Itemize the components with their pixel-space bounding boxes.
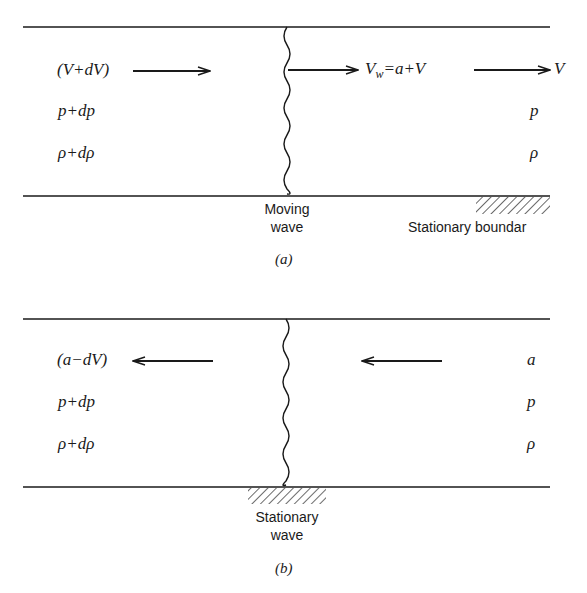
caption-b: (b)	[275, 560, 293, 577]
right-velocity-label-b: a	[527, 350, 536, 370]
stationary-boundary-hatch-a	[476, 197, 550, 214]
left-density-label-a: ρ+dρ	[58, 143, 94, 163]
moving-wave-label: Moving wave	[252, 200, 322, 236]
right-density-label-b: ρ	[527, 434, 535, 454]
left-velocity-label-b: (a−dV)	[57, 350, 107, 370]
wave-velocity-expression: =a+V	[383, 59, 425, 78]
diagram-canvas	[0, 0, 587, 593]
wave-velocity-label: Vw=a+V	[365, 59, 425, 82]
stationary-wave-front	[283, 319, 289, 486]
stationary-wave-label-line2: wave	[242, 526, 332, 544]
left-pressure-label-a: p+dp	[58, 101, 95, 121]
stationary-boundary-label: Stationary boundar	[408, 218, 526, 236]
right-pressure-label-a: p	[530, 101, 539, 121]
stationary-wave-label: Stationary wave	[242, 508, 332, 544]
moving-wave-label-line2: wave	[252, 218, 322, 236]
panel-b	[23, 319, 550, 504]
caption-a: (a)	[275, 251, 293, 268]
right-velocity-label-a: V	[554, 59, 564, 79]
stationary-wave-label-line1: Stationary	[242, 508, 332, 526]
left-pressure-label-b: p+dp	[58, 392, 95, 412]
wave-velocity-symbol: V	[365, 59, 375, 78]
left-density-label-b: ρ+dρ	[58, 434, 94, 454]
moving-wave-label-line1: Moving	[252, 200, 322, 218]
left-velocity-label-a: (V+dV)	[57, 60, 109, 80]
panel-a	[23, 27, 550, 214]
right-pressure-label-b: p	[527, 392, 536, 412]
stationary-wave-hatch-b	[248, 488, 326, 504]
right-density-label-a: ρ	[530, 143, 538, 163]
moving-wave-front	[284, 27, 290, 194]
